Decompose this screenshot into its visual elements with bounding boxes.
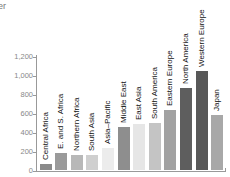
y-tick-label: 600 bbox=[20, 109, 33, 119]
y-tick-label: 800 bbox=[20, 90, 33, 100]
y-tick-label: 200 bbox=[20, 147, 33, 157]
y-tick-mark bbox=[33, 171, 36, 172]
y-tick: 200 bbox=[0, 147, 40, 157]
bar-label: Eastern Europe bbox=[165, 50, 174, 106]
bar bbox=[210, 114, 224, 171]
bar bbox=[132, 123, 146, 171]
bar bbox=[148, 122, 162, 171]
bar bbox=[195, 70, 209, 171]
bar bbox=[70, 154, 84, 171]
bar-label: Middle East bbox=[119, 82, 128, 124]
y-tick: 800 bbox=[0, 90, 40, 100]
x-axis bbox=[36, 171, 226, 172]
y-tick: 1,200 bbox=[0, 52, 40, 62]
bar-chart: 02004006008001,0001,200Central AfricaE. … bbox=[0, 0, 230, 177]
y-tick-mark bbox=[33, 76, 36, 77]
bar-label: South Asia bbox=[87, 113, 96, 151]
y-tick-label: 400 bbox=[20, 128, 33, 138]
bar-label: Northern Africa bbox=[72, 98, 81, 151]
y-tick-mark bbox=[33, 114, 36, 115]
y-tick-mark bbox=[33, 95, 36, 96]
bar bbox=[101, 147, 115, 171]
bar-label: North America bbox=[181, 34, 190, 85]
bar-label: Central Africa bbox=[41, 112, 50, 160]
bar-label: E. and S. Africa bbox=[56, 94, 65, 149]
bar bbox=[39, 163, 53, 171]
y-tick-label: 1,000 bbox=[14, 71, 33, 81]
bar bbox=[85, 154, 99, 171]
bar-label: Japan bbox=[212, 89, 221, 111]
bar bbox=[163, 109, 177, 171]
bar-label: South America bbox=[150, 67, 159, 119]
bar bbox=[117, 126, 131, 171]
y-tick-mark bbox=[33, 152, 36, 153]
bar-label: Western Europe bbox=[197, 9, 206, 67]
bar bbox=[54, 152, 68, 171]
y-tick: 400 bbox=[0, 128, 40, 138]
y-tick: 1,000 bbox=[0, 71, 40, 81]
y-tick: 600 bbox=[0, 109, 40, 119]
bar-label: East Asia bbox=[134, 86, 143, 119]
y-tick: 0 bbox=[0, 166, 40, 176]
y-tick-mark bbox=[33, 133, 36, 134]
bar bbox=[179, 87, 193, 171]
x-axis-end-tick bbox=[225, 168, 226, 172]
y-tick-mark bbox=[33, 57, 36, 58]
bar-label: Asia–Pacific bbox=[103, 100, 112, 144]
y-tick-label: 1,200 bbox=[14, 52, 33, 62]
